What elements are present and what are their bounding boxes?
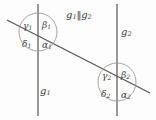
relation-line-b-subscript: 2 xyxy=(88,13,92,21)
line-label-g1-subscript: 1 xyxy=(46,89,50,97)
angle-label-alpha1: α1 xyxy=(42,41,52,50)
line-label-g2-subscript: 2 xyxy=(127,30,131,38)
angle-label-delta2: δ2 xyxy=(101,90,110,99)
angle-subscript-alpha2: 2 xyxy=(127,93,131,100)
angle-label-beta2: β2 xyxy=(121,71,130,80)
angle-label-gamma1: γ1 xyxy=(23,22,32,31)
angle-label-delta1: δ1 xyxy=(22,40,31,49)
angle-label-gamma2: γ2 xyxy=(102,72,111,81)
line-label-g1: g1 xyxy=(40,86,51,97)
angle-subscript-delta2: 2 xyxy=(106,92,110,99)
angle-subscript-gamma1: 1 xyxy=(28,24,32,31)
angle-subscript-alpha1: 1 xyxy=(48,43,52,50)
line-label-g2: g2 xyxy=(121,27,132,38)
angle-label-beta1: β1 xyxy=(42,21,51,30)
angle-subscript-beta1: 1 xyxy=(47,23,51,30)
parallel-relation-label: g1‖g2 xyxy=(66,10,92,21)
angle-subscript-beta2: 2 xyxy=(126,73,130,80)
angle-label-alpha2: α2 xyxy=(121,91,131,100)
angle-subscript-gamma2: 2 xyxy=(107,74,111,81)
angle-subscript-delta1: 1 xyxy=(27,42,31,49)
geometry-figure: g1‖g2 g1 g2 γ1 β1 δ1 α1 γ2 β2 δ2 α2 xyxy=(0,0,156,120)
